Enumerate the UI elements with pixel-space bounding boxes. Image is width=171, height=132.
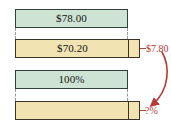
bar-whole-percent: 100% [15,70,128,89]
bar-whole-percent-label: 100% [58,74,84,85]
guide-line-right-bottom [127,89,128,101]
bar-part-percent [15,101,140,120]
bar-part-amount: $70.20 [15,39,140,58]
guide-line-right-top [127,28,128,39]
guide-line-left-top [15,28,16,39]
bar-whole-amount: $78.00 [15,9,128,28]
bar-part-percent-text-area [16,102,129,119]
bar-model-figure: $78.00 $70.20 100% $7.80 ?% [0,0,171,132]
bar-part-amount-text-area: $70.20 [16,40,129,57]
guide-line-left-bottom [15,89,16,101]
curved-arrow-icon [132,50,171,112]
bar-whole-amount-label: $78.00 [56,13,87,24]
bar-part-amount-label: $70.20 [57,43,88,54]
